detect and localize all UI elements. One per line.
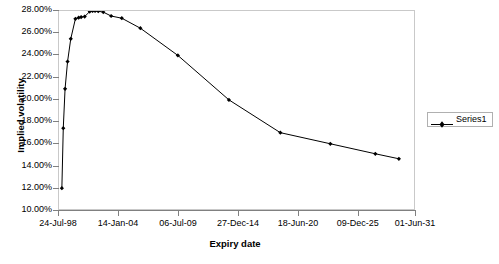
x-axis-tick-label: 27-Dec-14 — [206, 218, 270, 228]
series1-data-point — [397, 157, 401, 161]
x-axis-tick-label: 09-Dec-25 — [326, 218, 390, 228]
series1-data-point — [73, 17, 77, 21]
y-axis-tick — [53, 166, 59, 167]
x-axis-tick — [415, 211, 416, 216]
plot-area — [58, 10, 415, 210]
y-axis-tick — [53, 143, 59, 144]
y-axis-tick-label: 10.00% — [4, 205, 52, 214]
series1-data-point — [328, 142, 332, 146]
y-axis-tick — [53, 188, 59, 189]
series1-data-point — [69, 37, 73, 41]
y-axis-tick-label: 12.00% — [4, 183, 52, 192]
x-axis-tick-label: 24-Jul-98 — [26, 218, 90, 228]
x-axis-title: Expiry date — [170, 238, 300, 249]
y-axis-tick-label: 28.00% — [4, 5, 52, 14]
y-axis-tick-label: 16.00% — [4, 138, 52, 147]
y-axis-tick — [53, 32, 59, 33]
chart-legend[interactable]: Series1 — [427, 112, 493, 127]
series1-data-point — [60, 186, 64, 190]
x-axis-tick-label: 14-Jan-04 — [86, 218, 150, 228]
implied-volatility-chart: Implied volatility 28.00%26.00%24.00%22.… — [0, 0, 499, 264]
series-plot — [59, 11, 416, 211]
y-axis-tick-label: 26.00% — [4, 27, 52, 36]
x-axis-tick — [298, 211, 299, 216]
y-axis-tick-label: 22.00% — [4, 72, 52, 81]
series1-data-point — [63, 87, 67, 91]
series1-data-point — [65, 59, 69, 63]
y-axis-tick — [53, 99, 59, 100]
x-axis-tick — [178, 211, 179, 216]
series1-data-point — [61, 126, 65, 130]
y-axis-tick — [53, 121, 59, 122]
y-axis-tick — [53, 77, 59, 78]
x-axis-tick-label: 18-Jun-20 — [266, 218, 330, 228]
series1-data-point — [120, 16, 124, 20]
x-axis-tick — [118, 211, 119, 216]
x-axis-tick — [238, 211, 239, 216]
y-axis-tick — [53, 10, 59, 11]
y-axis-tick — [53, 54, 59, 55]
legend-series-label: Series1 — [456, 115, 487, 124]
y-axis-tick-label: 18.00% — [4, 116, 52, 125]
x-axis-tick — [58, 211, 59, 216]
y-axis-tick-label: 24.00% — [4, 49, 52, 58]
series1-data-point — [373, 152, 377, 156]
x-axis-tick — [358, 211, 359, 216]
x-axis-tick-label: 01-Jun-31 — [383, 218, 447, 228]
y-axis-tick — [53, 210, 59, 211]
series1-data-point — [96, 11, 100, 13]
x-axis-tick-label: 06-Jul-09 — [146, 218, 210, 228]
y-axis-tick-label: 14.00% — [4, 161, 52, 170]
series1-data-point — [101, 11, 105, 14]
series1-data-point — [109, 14, 113, 18]
y-axis-tick-label: 20.00% — [4, 94, 52, 103]
legend-series-marker-icon — [431, 115, 453, 124]
